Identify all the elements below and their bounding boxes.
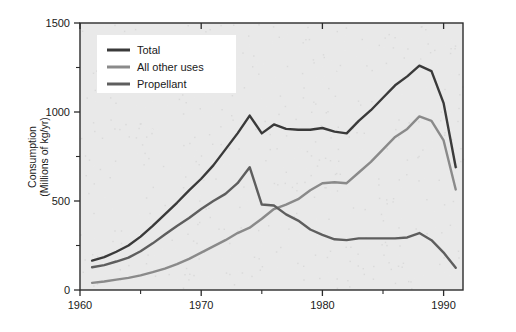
y-tick-label: 0 (64, 284, 70, 296)
y-axis-title: Consumption (Millions of kg/yr) (26, 117, 50, 196)
x-tick-label: 1970 (189, 299, 213, 311)
x-tick-label: 1990 (431, 299, 455, 311)
consumption-line-chart: 050010001500 1960197019801990 Consumptio… (0, 0, 516, 332)
x-tick-label: 1980 (310, 299, 334, 311)
legend-label-propellant: Propellant (137, 78, 187, 90)
chart-figure: 050010001500 1960197019801990 Consumptio… (0, 0, 516, 332)
x-tick-label: 1960 (68, 299, 92, 311)
chart-legend: TotalAll other usesPropellant (97, 35, 236, 93)
legend-label-all-other-uses: All other uses (137, 61, 204, 73)
y-axis-title-line1: Consumption (26, 126, 38, 188)
legend-label-total: Total (137, 44, 160, 56)
y-tick-label: 1500 (46, 17, 70, 29)
y-axis-title-line2: (Millions of kg/yr) (38, 117, 50, 196)
y-tick-label: 500 (52, 195, 70, 207)
y-tick-label: 1000 (46, 106, 70, 118)
